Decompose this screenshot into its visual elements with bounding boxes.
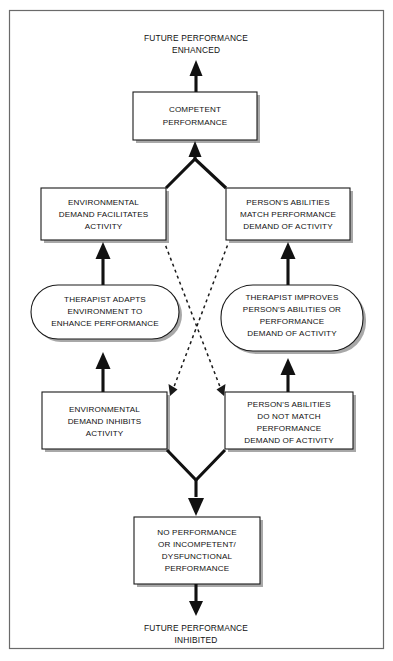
arrowhead-dashed-left-lower [169,384,178,396]
therapist-improves-line-4: DEMAND OF ACTIVITY [247,329,337,338]
abilities-match-line-2: MATCH PERFORMANCE [240,210,336,219]
competent-performance-box [133,92,257,140]
no-performance-line-1: NO PERFORMANCE [157,528,237,537]
env-demand-inhibits-line-3: ACTIVITY [86,429,124,438]
arrowhead-up-therapist-improves [281,358,296,375]
competent-performance-line-2: PERFORMANCE [163,118,228,127]
flowchart-diagram: FUTURE PERFORMANCE ENHANCED COMPETENT PE… [0,0,393,661]
arrowhead-up-facilitates [96,242,111,259]
no-performance-line-3: DYSFUNCTIONAL [162,552,233,561]
therapist-adapts-line-3: ENHANCE PERFORMANCE [51,319,159,328]
arrowhead-down-future-inhibited [189,601,203,616]
abilities-do-not-match-line-4: DEMAND OF ACTIVITY [244,436,334,445]
bottom-caption-line-1: FUTURE PERFORMANCE [144,623,248,633]
competent-performance-line-1: COMPETENT [169,105,221,114]
arrowhead-up-future-enhanced [190,60,203,76]
no-performance-line-4: PERFORMANCE [165,564,230,573]
no-performance-line-2: OR INCOMPETENT/ [158,540,236,549]
arrowhead-up-competent [189,141,202,157]
arrowhead-down-no-performance [188,498,204,516]
abilities-do-not-match-line-1: PERSON'S ABILITIES [247,400,331,409]
env-demand-facilitates-line-2: DEMAND FACILITATES [59,210,149,219]
top-caption-line-1: FUTURE PERFORMANCE [144,33,248,43]
top-caption-line-2: ENHANCED [172,45,220,55]
abilities-do-not-match-line-3: PERFORMANCE [257,424,322,433]
therapist-adapts-line-2: ENVIRONMENT TO [68,307,143,316]
diagram-canvas: FUTURE PERFORMANCE ENHANCED COMPETENT PE… [0,0,393,661]
converge-upper-to-competent [166,159,226,188]
abilities-match-line-3: DEMAND OF ACTIVITY [243,222,333,231]
therapist-improves-line-1: THERAPIST IMPROVES [246,293,339,302]
therapist-improves-line-3: PERFORMANCE [260,317,325,326]
abilities-match-line-1: PERSON'S ABILITIES [246,198,330,207]
bottom-caption-line-2: INHIBITED [175,635,218,645]
env-demand-inhibits-line-1: ENVIRONMENTAL [69,405,140,414]
env-demand-facilitates-line-1: ENVIRONMENTAL [68,198,139,207]
arrowhead-up-match [281,242,296,259]
abilities-do-not-match-line-2: DO NOT MATCH [257,412,321,421]
therapist-improves-line-2: PERSON'S ABILITIES OR [243,305,341,314]
arrowhead-dashed-right-lower [217,384,226,396]
arrowhead-up-therapist-adapts [96,352,111,369]
env-demand-inhibits-line-2: DEMAND INHIBITS [68,417,142,426]
env-demand-facilitates-line-3: ACTIVITY [85,222,123,231]
converge-lower-to-no-performance [167,450,225,480]
therapist-adapts-line-1: THERAPIST ADAPTS [64,295,146,304]
